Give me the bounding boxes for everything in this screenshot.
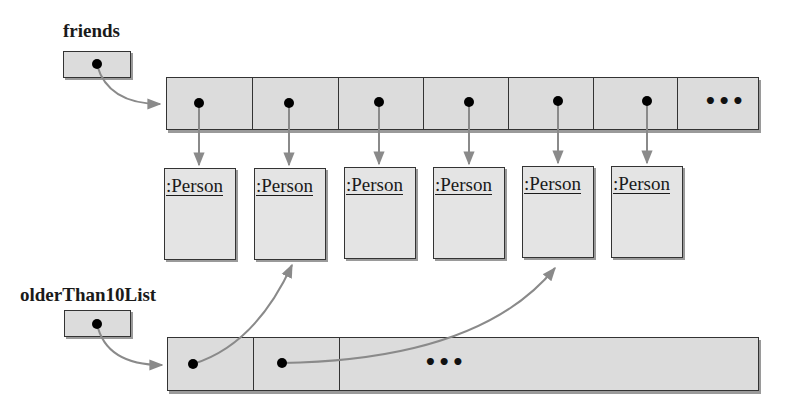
olderThan10List-array: ••• bbox=[167, 337, 759, 391]
friends-reference-box bbox=[63, 51, 131, 78]
ellipsis-icon: ••• bbox=[704, 89, 745, 113]
person-object-2: :Person bbox=[344, 167, 416, 259]
friends-label: friends bbox=[63, 20, 120, 42]
olderThan10List-label: olderThan10List bbox=[20, 284, 156, 306]
person-object-3: :Person bbox=[433, 167, 505, 259]
friends-array-cell-3 bbox=[424, 78, 509, 129]
friends-array-cell-4 bbox=[509, 78, 594, 129]
friends-array-cell-1 bbox=[253, 78, 339, 129]
person-title: :Person bbox=[612, 167, 682, 195]
olderThan10List-array-cell-more: ••• bbox=[340, 338, 758, 390]
olderThan10List-array-cell-0 bbox=[168, 338, 254, 390]
ellipsis-icon: ••• bbox=[424, 350, 465, 374]
person-object-1: :Person bbox=[254, 168, 326, 260]
friends-array-cell-0 bbox=[167, 78, 253, 129]
person-object-0: :Person bbox=[164, 168, 236, 260]
person-object-5: :Person bbox=[611, 166, 683, 258]
friends-array-cell-5 bbox=[594, 78, 678, 129]
person-title: :Person bbox=[165, 169, 235, 197]
person-title: :Person bbox=[345, 168, 415, 196]
person-title: :Person bbox=[434, 168, 504, 196]
friends-array-cell-2 bbox=[339, 78, 424, 129]
friends-array-cell-more: ••• bbox=[678, 78, 758, 129]
person-title: :Person bbox=[523, 167, 593, 195]
friends-array: ••• bbox=[166, 77, 759, 130]
person-object-4: :Person bbox=[522, 166, 594, 258]
olderThan10List-reference-box bbox=[64, 310, 131, 337]
olderThan10List-array-cell-1 bbox=[254, 338, 340, 390]
person-title: :Person bbox=[255, 169, 325, 197]
